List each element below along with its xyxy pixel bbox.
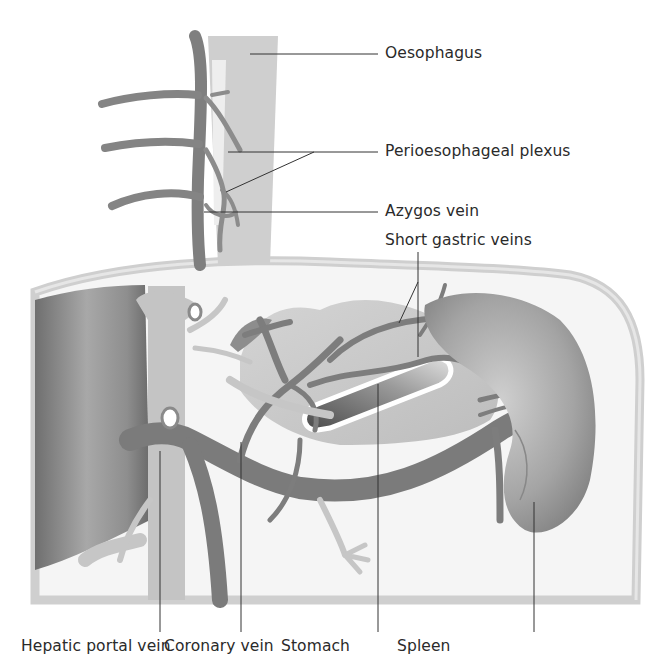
anatomy-illustration — [0, 0, 655, 664]
label-perioesophageal-plexus: Perioesophageal plexus — [385, 142, 571, 160]
label-azygos-vein: Azygos vein — [385, 202, 479, 220]
label-hepatic-portal-vein: Hepatic portal vein — [21, 637, 171, 655]
label-coronary-vein: Coronary vein — [164, 637, 274, 655]
label-oesophagus: Oesophagus — [385, 44, 482, 62]
label-short-gastric-veins: Short gastric veins — [385, 231, 532, 249]
label-stomach: Stomach — [281, 637, 350, 655]
label-spleen: Spleen — [397, 637, 450, 655]
